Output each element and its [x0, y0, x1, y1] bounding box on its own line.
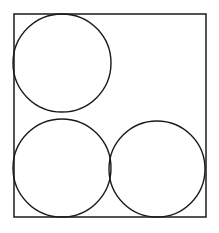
- figure-background: [0, 0, 219, 233]
- geometry-figure-svg: [0, 0, 219, 233]
- figure-canvas: [0, 0, 219, 233]
